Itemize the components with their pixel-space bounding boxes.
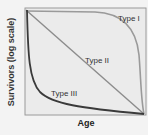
type-1-label: Type I xyxy=(118,14,140,23)
y-axis-label: Survivors (log scale) xyxy=(5,7,17,117)
x-axis-label: Age xyxy=(25,118,147,128)
type-3-label: Type III xyxy=(51,89,77,98)
type-2-label: Type II xyxy=(85,56,109,65)
survivorship-figure: Type I Type II Type III Survivors (log s… xyxy=(0,0,148,135)
